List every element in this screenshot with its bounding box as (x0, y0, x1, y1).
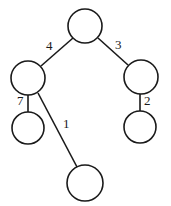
node-left-left (12, 112, 44, 144)
tree-diagram: 4 3 7 1 2 (0, 0, 171, 206)
node-root (68, 9, 102, 43)
node-right-child (124, 111, 156, 143)
edge-root-right (98, 38, 128, 65)
edge-weight-right-right-child: 2 (144, 93, 151, 108)
edge-weight-root-right: 3 (115, 37, 122, 52)
nodes (11, 9, 158, 201)
node-right (124, 60, 158, 94)
edge-weight-left-left-right: 1 (63, 116, 70, 131)
edge-weight-left-left-left: 7 (17, 93, 24, 108)
edges (28, 38, 140, 167)
node-left-right (67, 165, 103, 201)
node-left (11, 61, 45, 95)
edge-weight-root-left: 4 (46, 38, 53, 53)
